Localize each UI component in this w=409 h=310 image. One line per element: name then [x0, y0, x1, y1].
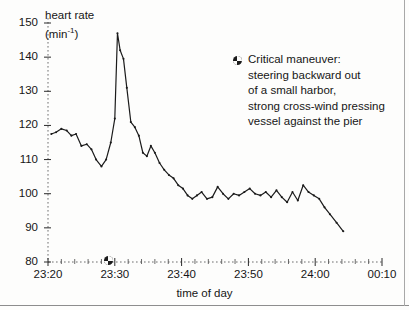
dot-marker-icon: [233, 56, 242, 65]
y-axis-title-unit: (min-1): [45, 23, 94, 42]
data-point: [168, 174, 170, 176]
data-point: [281, 196, 283, 198]
data-point: [60, 128, 62, 130]
data-point: [238, 194, 240, 196]
y-axis-title: heart rate (min-1): [45, 8, 94, 42]
annotation-line-3: of a small harbor,: [248, 83, 385, 99]
y-tick-label: 140: [4, 50, 38, 62]
data-point: [70, 135, 72, 137]
data-point: [313, 194, 315, 196]
data-point: [206, 198, 208, 200]
data-point: [318, 198, 320, 200]
data-point: [110, 141, 112, 143]
data-point: [119, 49, 121, 51]
data-point: [122, 58, 124, 60]
data-point: [291, 191, 293, 193]
y-tick-label: 90: [4, 221, 38, 233]
data-point: [66, 130, 68, 132]
data-point: [265, 191, 267, 193]
data-point: [233, 193, 235, 195]
data-point: [86, 143, 88, 145]
event-dot-marker-icon: [104, 256, 113, 265]
data-point: [259, 194, 261, 196]
data-point: [114, 118, 116, 120]
chart-plot-area: [0, 0, 409, 310]
y-tick-label: 110: [4, 153, 38, 165]
chart-figure: heart rate (min-1) time of day 809010011…: [0, 0, 409, 310]
data-point: [182, 188, 184, 190]
figure-frame-right: [404, 0, 405, 306]
data-point: [90, 148, 92, 150]
data-point: [130, 121, 132, 123]
data-point: [222, 193, 224, 195]
data-point: [336, 222, 338, 224]
data-point: [150, 145, 152, 147]
data-point: [243, 191, 245, 193]
y-axis-unit-open: (min: [45, 28, 67, 40]
data-point: [105, 159, 107, 161]
data-point: [80, 145, 82, 147]
annotation-line-4: strong cross-wind pressing: [248, 99, 385, 115]
data-point: [177, 184, 179, 186]
y-axis-unit-close: ): [75, 28, 79, 40]
data-point: [142, 152, 144, 154]
annotation-line-5: vessel against the pier: [248, 114, 385, 130]
annotation-line-1: Critical maneuver:: [248, 52, 385, 68]
data-point: [302, 184, 304, 186]
x-tick-label: 23:50: [218, 268, 278, 280]
data-point: [55, 131, 57, 133]
data-point: [196, 194, 198, 196]
y-axis-unit-exponent: -1: [67, 26, 74, 35]
x-axis-ticks: [48, 258, 382, 266]
data-point: [211, 196, 213, 198]
y-tick-label: 80: [4, 255, 38, 267]
y-tick-label: 120: [4, 118, 38, 130]
x-axis-title: time of day: [0, 287, 409, 299]
data-point: [75, 133, 77, 135]
x-tick-label: 00:10: [352, 268, 409, 280]
data-point: [50, 133, 52, 135]
x-tick-label: 23:40: [152, 268, 212, 280]
y-tick-label: 150: [4, 16, 38, 28]
annotation-line-2: steering backward out: [248, 68, 385, 84]
data-point: [297, 199, 299, 201]
data-point: [270, 196, 272, 198]
data-point: [95, 159, 97, 161]
data-point: [159, 162, 161, 164]
data-point: [191, 198, 193, 200]
x-tick-label: 23:30: [85, 268, 145, 280]
data-point: [146, 155, 148, 157]
y-tick-label: 130: [4, 84, 38, 96]
data-point: [173, 177, 175, 179]
data-point: [154, 152, 156, 154]
data-point: [329, 213, 331, 215]
x-tick-label: 24:00: [285, 268, 345, 280]
data-point: [254, 193, 256, 195]
data-point: [134, 126, 136, 128]
x-tick-label: 23:20: [18, 268, 78, 280]
data-point: [227, 198, 229, 200]
data-point: [217, 186, 219, 188]
data-point: [286, 201, 288, 203]
data-point: [126, 87, 128, 89]
figure-frame-bottom: [0, 305, 409, 306]
data-point: [249, 188, 251, 190]
data-point: [187, 194, 189, 196]
data-point: [275, 189, 277, 191]
data-point: [201, 191, 203, 193]
data-point: [138, 135, 140, 137]
data-point: [342, 230, 344, 232]
data-point: [324, 206, 326, 208]
y-tick-label: 100: [4, 187, 38, 199]
annotation-text: Critical maneuver:steering backward outo…: [248, 52, 385, 130]
data-point: [100, 165, 102, 167]
data-point: [116, 32, 118, 34]
data-point: [307, 191, 309, 193]
y-axis-title-line1: heart rate: [45, 9, 94, 21]
data-point: [163, 169, 165, 171]
